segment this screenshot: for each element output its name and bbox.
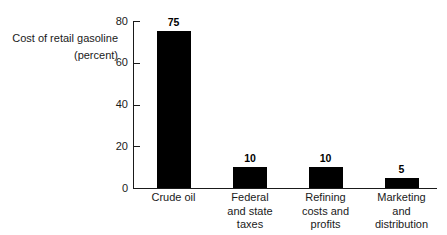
- bar-crude-oil: [157, 31, 191, 188]
- x-category-label: Crude oil: [134, 191, 214, 205]
- y-tick-label-2: 40: [100, 99, 128, 110]
- bar-marketing-and-distribution: [385, 178, 419, 188]
- y-tick-label-0: 0: [100, 183, 128, 194]
- y-tick-3: [134, 63, 140, 64]
- x-category-label: Refiningcosts andprofits: [286, 191, 366, 232]
- y-tick-label-1: 20: [100, 141, 128, 152]
- x-category-label: Marketinganddistribution: [362, 191, 442, 232]
- bar-value-label: 10: [301, 153, 351, 164]
- y-tick-4: [134, 21, 140, 22]
- bar-value-label: 75: [149, 17, 199, 28]
- y-tick-label-4: 80: [100, 16, 128, 27]
- y-tick-2: [134, 105, 140, 106]
- bar-chart: Cost of retail gasoline (percent) 0 20 4…: [0, 0, 447, 235]
- y-tick-0: [134, 188, 140, 189]
- bar-federal-and-state-taxes: [233, 167, 267, 188]
- x-axis-line: [133, 188, 437, 189]
- y-tick-label-3: 60: [100, 57, 128, 68]
- bar-refining-costs-and-profits: [309, 167, 343, 188]
- plot-area: 0 20 40 60 80 75 10 10 5 Crude oil Feder…: [0, 0, 447, 235]
- y-tick-1: [134, 146, 140, 147]
- bar-value-label: 10: [225, 153, 275, 164]
- x-category-label: Federaland statetaxes: [210, 191, 290, 232]
- bar-value-label: 5: [377, 164, 427, 175]
